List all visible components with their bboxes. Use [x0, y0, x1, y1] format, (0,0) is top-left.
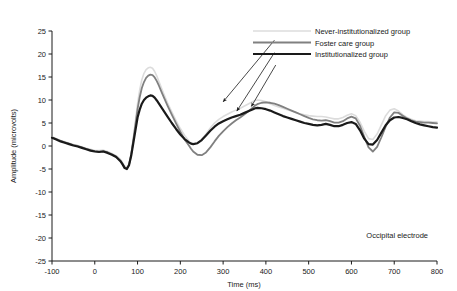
- electrode-label: Occipital electrode: [366, 231, 428, 240]
- y-tick-label: 0: [42, 142, 46, 151]
- y-tick-label: -25: [35, 257, 46, 266]
- x-tick-label: 200: [174, 267, 187, 276]
- legend-label-2: Institutionalized group: [315, 50, 388, 59]
- legend-label-1: Foster care group: [315, 39, 374, 48]
- erp-waveform-chart: -25-20-15-10-50510152025 -10001002003004…: [0, 0, 457, 291]
- legend-label-0: Never-institutionalized group: [315, 27, 410, 36]
- x-tick-label: 100: [131, 267, 144, 276]
- y-tick-label: 5: [42, 119, 46, 128]
- x-tick-label: 800: [431, 267, 444, 276]
- y-tick-label: -20: [35, 234, 46, 243]
- y-tick-label: -10: [35, 188, 46, 197]
- x-tick-label: 500: [302, 267, 315, 276]
- y-axis-title: Amplitude (microvolts): [9, 108, 18, 183]
- x-tick-label: 300: [217, 267, 230, 276]
- x-tick-label: 400: [260, 267, 273, 276]
- y-tick-label: 25: [38, 27, 46, 36]
- x-axis-title: Time (ms): [227, 280, 261, 289]
- x-tick-label: 0: [93, 267, 97, 276]
- y-tick-label: 20: [38, 50, 46, 59]
- y-tick-label: 15: [38, 73, 46, 82]
- y-tick-label: 10: [38, 96, 46, 105]
- y-tick-label: -5: [39, 165, 46, 174]
- x-tick-label: 700: [388, 267, 401, 276]
- x-tick-label: 600: [345, 267, 358, 276]
- y-tick-label: -15: [35, 211, 46, 220]
- chart-background: [0, 0, 457, 291]
- x-tick-label: -100: [44, 267, 59, 276]
